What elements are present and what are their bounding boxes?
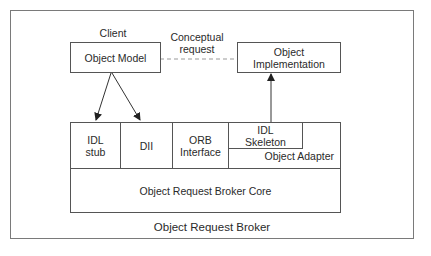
dii-label: DII (140, 140, 153, 152)
object-model-label: Object Model (85, 52, 147, 64)
edge-model-to-stub (96, 73, 111, 120)
orb-interface-line-2: Interface (180, 146, 221, 158)
idl-skeleton-line-1: IDL (245, 124, 286, 136)
idl-skeleton-line-2: Skeleton (245, 136, 286, 148)
idl-stub-line-1: IDL (86, 134, 106, 146)
object-implementation-line-2: Implementation (253, 58, 325, 70)
idl-stub-box: IDL stub (70, 122, 121, 169)
object-adapter-label: Object Adapter (265, 150, 334, 162)
object-implementation-box: Object Implementation (237, 42, 341, 73)
orb-interface-box: ORB Interface (172, 122, 229, 169)
edge-model-to-dii (112, 73, 140, 120)
conceptual-request-line-2: request (162, 43, 232, 55)
conceptual-request-label: Conceptual request (162, 31, 232, 55)
orb-core-box: Object Request Broker Core (70, 168, 341, 213)
idl-skeleton-box: IDL Skeleton (228, 122, 303, 149)
idl-stub-line-2: stub (86, 146, 106, 158)
orb-title: Object Request Broker (10, 221, 414, 233)
orb-core-label: Object Request Broker Core (140, 185, 272, 197)
object-implementation-line-1: Object (253, 46, 325, 58)
dii-box: DII (120, 122, 173, 169)
conceptual-request-line-1: Conceptual (162, 31, 232, 43)
object-model-box: Object Model (70, 42, 161, 73)
client-label: Client (88, 27, 138, 39)
orb-interface-line-1: ORB (180, 134, 221, 146)
